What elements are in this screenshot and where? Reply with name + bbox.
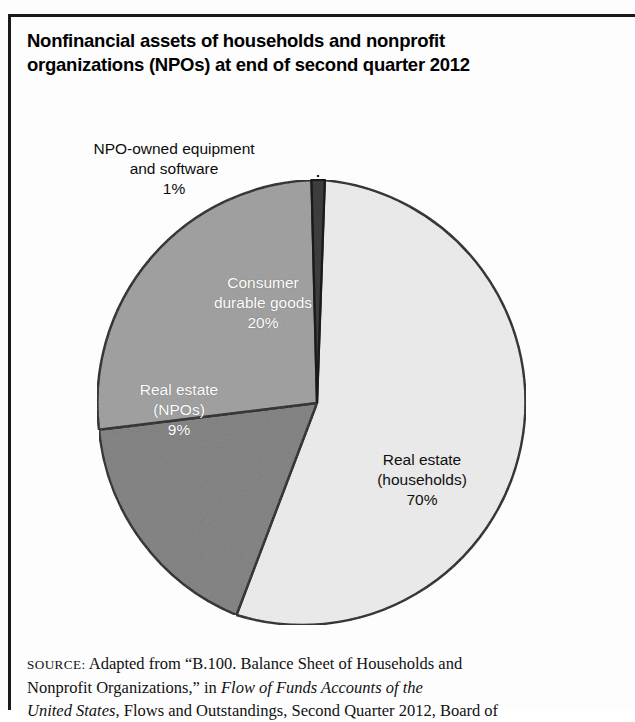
callout-value: 1% xyxy=(64,179,284,199)
source-line-3: United States, Flows and Outstandings, S… xyxy=(27,699,627,722)
page-title: Nonfinancial assets of households and no… xyxy=(27,29,587,77)
source-line-3-plain: , Flows and Outstandings, Second Quarter… xyxy=(115,701,498,720)
slice-label-npos-value: 9% xyxy=(104,420,254,440)
slice-label-real-estate-npos: Real estate (NPOs) 9% xyxy=(104,380,254,440)
slice-label-npos-line-1: Real estate xyxy=(104,380,254,400)
slice-label-consumer-line-2: durable goods xyxy=(168,293,358,313)
frame-top-rule xyxy=(8,14,635,17)
slice-label-consumer-durable-goods: Consumer durable goods 20% xyxy=(168,273,358,333)
slice-label-npos-line-2: (NPOs) xyxy=(104,400,254,420)
slice-label-consumer-value: 20% xyxy=(168,313,358,333)
slice-label-real-estate-households: Real estate (households) 70% xyxy=(337,450,507,510)
source-line-2: Nonprofit Organizations,” in Flow of Fun… xyxy=(27,676,627,699)
slice-label-households-value: 70% xyxy=(337,490,507,510)
source-line-2-italic: Flow of Funds Accounts of the xyxy=(221,678,423,697)
source-line-3-italic: United States xyxy=(27,701,115,720)
slice-label-consumer-line-1: Consumer xyxy=(168,273,358,293)
title-line-2: organizations (NPOs) at end of second qu… xyxy=(27,53,587,77)
source-prefix: SOURCE: xyxy=(27,657,86,672)
callout-line-2: and software xyxy=(64,159,284,179)
source-line-2-plain: Nonprofit Organizations,” in xyxy=(27,678,221,697)
callout-line-1: NPO-owned equipment xyxy=(64,139,284,159)
source-line-1: SOURCE: Adapted from “B.100. Balance She… xyxy=(27,652,627,676)
title-line-1: Nonfinancial assets of households and no… xyxy=(27,29,587,53)
slice-label-households-line-1: Real estate xyxy=(337,450,507,470)
source-note: SOURCE: Adapted from “B.100. Balance She… xyxy=(27,652,627,722)
source-line-1-text: Adapted from “B.100. Balance Sheet of Ho… xyxy=(86,654,463,673)
callout-npo-owned-equipment: NPO-owned equipment and software 1% xyxy=(64,139,284,199)
slice-label-households-line-2: (households) xyxy=(337,470,507,490)
frame-left-rule xyxy=(8,14,11,710)
